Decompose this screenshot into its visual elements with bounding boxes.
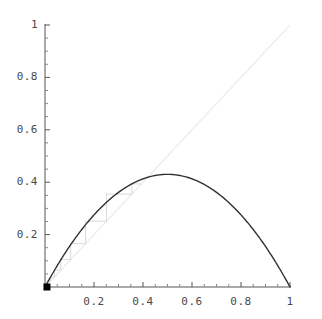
cobweb-plot-figure: 10.80.60.40.2 0.20.40.60.81	[0, 0, 322, 319]
x-tick-label: 1	[270, 296, 310, 307]
y-tick-label: 0.2	[17, 229, 38, 240]
y-tick-label: 0.4	[17, 176, 38, 187]
x-tick-label: 0.6	[172, 296, 212, 307]
x-tick-label: 0.8	[221, 296, 261, 307]
y-axis-major-ticks	[45, 25, 50, 235]
x-tick-label: 0.4	[123, 296, 163, 307]
x-tick-label: 0.2	[74, 296, 114, 307]
plot-canvas	[0, 0, 322, 319]
y-tick-label: 0.6	[17, 124, 38, 135]
x-axis-major-ticks	[94, 282, 290, 287]
identity-line-y-equals-x	[45, 25, 290, 287]
y-tick-label: 1	[31, 19, 38, 30]
logistic-map-curve	[45, 174, 290, 287]
initial-point-marker	[43, 284, 50, 291]
y-tick-label: 0.8	[17, 71, 38, 82]
